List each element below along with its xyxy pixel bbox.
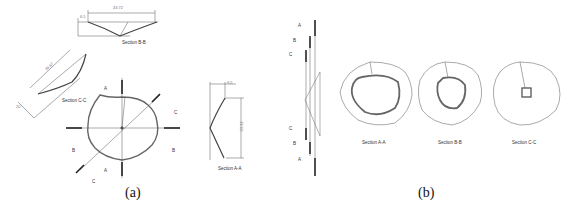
side-mark-c-bottom: C: [289, 126, 292, 131]
section-cc-shape: [493, 62, 560, 125]
aa-height-dim: 43.32: [239, 121, 244, 131]
side-mark-a-bottom: A: [298, 157, 301, 162]
cut-mark-a-top: A: [104, 86, 107, 91]
section-bb-b-label: Section B-B: [438, 140, 462, 145]
section-bb-shape: [418, 62, 481, 125]
section-bb-label: Section B-B: [122, 40, 146, 45]
section-cc-view: [18, 50, 86, 118]
cut-mark-c-right: C: [174, 110, 177, 115]
cut-mark-c-left: C: [92, 179, 95, 184]
bb-height-dim: 6.5: [80, 14, 86, 19]
cc-offset-dim: 20: [16, 104, 20, 109]
section-aa-b-label: Section A-A: [362, 140, 386, 145]
cut-mark-a-bottom: A: [104, 168, 107, 173]
cut-mark-b-left: B: [72, 148, 75, 153]
plan-view: [66, 78, 180, 178]
side-mark-a-top: A: [298, 23, 301, 28]
side-mark-b-top: B: [293, 38, 296, 43]
side-mark-c-top: C: [289, 52, 292, 57]
section-aa-shape: [340, 62, 412, 125]
section-cc-label: Section C-C: [62, 98, 86, 103]
side-view: [305, 20, 320, 176]
section-aa-label: Section A-A: [218, 166, 242, 171]
aa-width-dim: 9.5: [227, 80, 233, 85]
bb-width-dim: 43.72: [113, 5, 123, 10]
side-mark-b-bottom: B: [293, 141, 296, 146]
technical-drawing: [0, 0, 575, 214]
caption-b: (b): [418, 185, 434, 201]
caption-a: (a): [125, 185, 141, 201]
section-bb-view: [78, 10, 158, 36]
section-cc-b-label: Section C-C: [512, 140, 536, 145]
cut-mark-b-right: B: [172, 148, 175, 153]
